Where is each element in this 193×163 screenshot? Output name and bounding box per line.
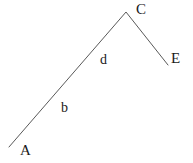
vertex-label-a: A: [20, 143, 31, 158]
vertex-label-c: C: [136, 2, 146, 17]
geometry-drawing: [0, 0, 193, 163]
segment-label-b: b: [61, 101, 68, 115]
angle-polyline: [9, 12, 168, 147]
segment-label-d: d: [100, 53, 107, 67]
vertex-label-e: E: [171, 51, 180, 66]
figure-canvas: C E A d b: [0, 0, 193, 163]
